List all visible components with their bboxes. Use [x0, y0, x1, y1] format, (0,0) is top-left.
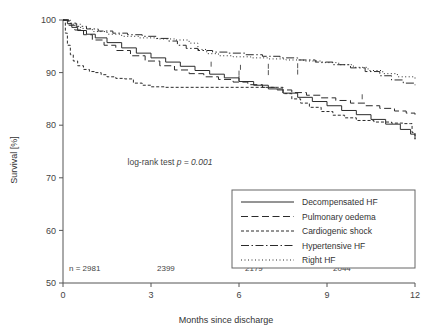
chart-background — [0, 0, 428, 331]
x-tick-label: 12 — [410, 290, 420, 300]
legend-label-cardiogenic-shock[interactable]: Cardiogenic shock — [302, 226, 373, 236]
legend-label-decompensated-hf[interactable]: Decompensated HF — [302, 197, 378, 207]
kaplan-meier-chart: 5060708090100 036912 Survival [%] Months… — [0, 0, 428, 331]
chart-legend[interactable]: Decompensated HFPulmonary oedemaCardioge… — [232, 190, 415, 268]
legend-label-right-hf[interactable]: Right HF — [302, 255, 336, 265]
y-tick-label: 50 — [46, 278, 56, 288]
survival-chart-figure: 5060708090100 036912 Survival [%] Months… — [0, 0, 428, 331]
x-tick-label: 6 — [236, 290, 241, 300]
log-rank-annotation: log-rank test p = 0.001 — [128, 157, 213, 167]
log-rank-pvalue: p = 0.001 — [176, 157, 213, 167]
x-tick-label: 3 — [148, 290, 153, 300]
x-tick-label: 0 — [60, 290, 65, 300]
chart-annotations: log-rank test p = 0.001 — [128, 157, 213, 167]
at-risk-count: 2399 — [157, 264, 175, 273]
y-tick-label: 70 — [46, 173, 56, 183]
y-tick-label: 90 — [46, 68, 56, 78]
x-tick-label: 9 — [324, 290, 329, 300]
legend-label-pulmonary-oedema[interactable]: Pulmonary oedema — [302, 212, 376, 222]
y-axis-title: Survival [%] — [9, 136, 19, 184]
y-tick-label: 80 — [46, 120, 56, 130]
y-tick-label: 60 — [46, 226, 56, 236]
y-tick-label: 100 — [41, 15, 56, 25]
log-rank-prefix: log-rank test — [128, 157, 177, 167]
x-axis-title: Months since discharge — [179, 315, 274, 325]
at-risk-count: n = 2981 — [69, 264, 101, 273]
legend-label-hypertensive-hf[interactable]: Hypertensive HF — [302, 241, 365, 251]
